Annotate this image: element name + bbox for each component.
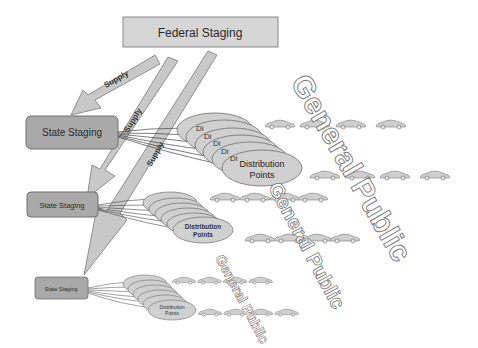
tier-2: Distribution Points State Staging bbox=[27, 192, 233, 243]
diagram-canvas: Federal Staging Supply Supply Supply bbox=[0, 0, 478, 348]
svg-text:Di: Di bbox=[213, 139, 221, 148]
svg-text:Di: Di bbox=[221, 147, 229, 156]
svg-text:Di: Di bbox=[196, 124, 204, 133]
dp-sub-1: Points bbox=[249, 170, 275, 180]
federal-staging-label: Federal Staging bbox=[158, 26, 243, 40]
dp-title-1: Distribution bbox=[239, 159, 284, 169]
federal-staging-box: Federal Staging bbox=[123, 17, 278, 47]
svg-text:Di: Di bbox=[230, 154, 238, 163]
state-staging-box-2: State Staging bbox=[27, 192, 98, 217]
state-staging-label-1: State Staging bbox=[42, 127, 102, 138]
state-staging-label-3: State Staging bbox=[44, 286, 77, 292]
svg-text:Di: Di bbox=[204, 132, 212, 141]
state-staging-label-2: State Staging bbox=[39, 201, 84, 210]
dp-sub-2: Points bbox=[193, 231, 213, 238]
dp-title-2: Distribution bbox=[185, 223, 221, 230]
state-staging-box-1: State Staging bbox=[26, 116, 118, 149]
state-staging-box-3: State Staging bbox=[35, 277, 88, 299]
general-public-label-3: General Public bbox=[212, 252, 272, 346]
dp-sub-3: Points bbox=[165, 310, 179, 316]
